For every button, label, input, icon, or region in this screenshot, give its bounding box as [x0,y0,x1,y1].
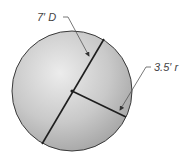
center-point [70,89,73,92]
radius-label: 3.5′ r [154,62,178,73]
diameter-label: 7′ D [37,12,56,23]
circle-diagram [0,0,190,159]
